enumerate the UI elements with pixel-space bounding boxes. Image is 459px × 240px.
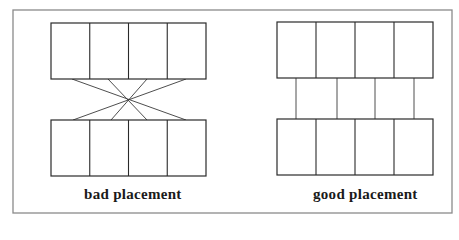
good-placement-panel bbox=[277, 22, 433, 175]
bad-placement-panel bbox=[51, 23, 206, 176]
good-bottom-block bbox=[277, 119, 433, 175]
good-top-block bbox=[277, 22, 433, 78]
good-placement-label: good placement bbox=[313, 186, 418, 203]
bad-top-block bbox=[51, 23, 206, 79]
bad-bottom-block bbox=[51, 120, 206, 176]
bad-placement-label: bad placement bbox=[84, 186, 182, 203]
